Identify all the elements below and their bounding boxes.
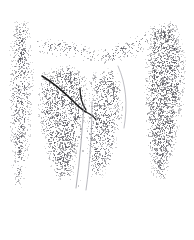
stipple-dot [107,122,108,123]
stipple-dot [160,131,161,132]
stipple-dot [158,61,159,62]
stipple-dot [74,107,75,108]
stipple-dot [159,132,160,133]
stipple-dot [163,178,164,179]
stipple-dot [106,127,107,128]
stipple-dot [176,100,177,101]
stipple-dot [147,64,148,65]
stipple-dot [105,155,106,156]
stipple-dot [129,44,130,45]
stipple-dot [52,160,53,161]
stipple-dot [147,99,148,100]
stipple-dot [23,155,24,156]
stipple-dot [157,160,158,161]
stipple-dot [11,96,12,97]
stipple-dot [59,178,60,179]
stipple-dot [111,98,112,99]
stipple-dot [69,103,70,104]
stipple-dot [67,147,68,148]
stipple-dot [13,102,14,103]
stipple-dot [16,60,17,61]
stipple-dot [74,88,75,89]
stipple-dot [155,43,156,44]
stipple-dot [177,72,178,73]
stipple-dot [53,122,54,123]
stipple-dot [160,175,161,176]
stipple-dot [175,134,176,135]
stipple-dot [178,98,179,99]
stipple-dot [106,76,107,77]
stipple-dot [151,156,152,157]
stipple-dot [122,44,123,45]
stipple-dot [152,131,153,132]
stipple-dot [76,45,77,46]
stipple-dot [16,143,17,144]
stipple-dot [50,121,51,122]
stipple-dot [110,59,111,60]
stipple-dot [152,80,153,81]
stipple-dot [92,128,93,129]
stipple-dot [81,84,82,85]
stipple-dot [159,44,160,45]
stipple-dot [59,129,60,130]
stipple-dot [160,59,161,60]
stipple-dot [122,109,123,110]
stipple-dot [75,138,76,139]
stipple-dot [97,150,98,151]
stipple-dot [179,74,180,75]
stipple-dot [102,158,103,159]
stipple-dot [167,137,168,138]
stipple-dot [52,76,54,78]
stipple-dot [184,66,185,67]
stipple-dot [105,129,106,130]
stipple-dot [172,132,173,133]
stipple-dot [41,121,42,122]
stipple-dot [100,82,101,83]
stipple-dot [16,85,17,86]
stipple-dot [53,74,54,75]
stipple-dot [168,127,169,128]
stipple-dot [172,126,173,127]
stipple-dot [73,151,74,152]
stipple-dot [164,156,165,157]
stipple-dot [174,70,175,71]
stipple-dot [24,151,25,152]
stipple-dot [29,144,30,145]
stipple-dot [151,53,152,54]
stipple-dot [109,58,110,59]
stipple-dot [78,185,80,187]
stipple-dot [93,145,94,146]
stipple-dot [165,125,166,126]
stipple-dot [164,37,165,38]
stipple-dot [163,125,164,126]
stipple-dot [44,147,45,148]
stipple-dot [16,182,17,183]
stipple-dot [24,44,25,45]
stipple-dot [169,143,170,144]
stipple-dot [116,106,117,107]
stipple-dot [64,122,65,123]
stipple-dot [180,54,181,55]
stipple-dot [108,140,110,142]
stipple-dot [109,120,111,122]
stipple-dot [165,150,166,151]
stipple-dot [48,117,49,118]
stipple-dot [63,42,64,43]
stipple-dot [67,137,68,138]
stipple-dot [173,57,175,59]
stipple-dot [75,85,76,86]
stipple-dot [153,78,154,79]
stipple-dot [24,64,25,65]
stipple-dot [20,184,21,185]
stipple-dot [41,85,42,86]
stipple-dot [50,39,51,40]
stipple-dot [115,116,116,117]
stipple-dot [79,103,81,105]
stipple-dot [78,109,79,110]
stipple-dot [105,76,106,77]
stipple-dot [175,116,176,117]
stipple-dot [120,89,121,90]
stipple-dot [66,102,67,103]
stipple-dot [60,121,61,122]
stipple-dot [65,97,66,98]
